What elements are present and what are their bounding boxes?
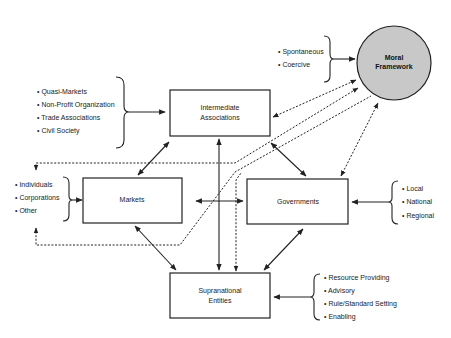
market-actor-item: • Individuals <box>15 181 53 188</box>
supranational-roles-brace <box>310 274 320 320</box>
moral-framework-label-2: Framework <box>375 63 412 70</box>
intermediate-label-1: Intermediate <box>201 104 240 111</box>
intermediate-moral-dotted-arrow <box>273 80 356 117</box>
markets-label: Markets <box>120 196 145 203</box>
market-actor-item: • Corporations <box>15 194 60 202</box>
markets-intermediate-arrow <box>138 142 169 175</box>
market-actor-item: • Other <box>15 207 38 214</box>
supranational-role-item: • Resource Providing <box>324 274 390 282</box>
moral-types-group: • Spontaneous • Coercive <box>278 36 355 82</box>
intermediate-types-group: • Quasi-Markets • Non-Profit Organizatio… <box>37 77 165 148</box>
supranational-roles-group: • Resource Providing • Advisory • Rule/S… <box>274 274 397 321</box>
moral-framework-node: Moral Framework <box>357 26 431 100</box>
government-level-item: • Regional <box>402 212 434 220</box>
government-levels-group: • Local • National • Regional <box>352 181 434 224</box>
moral-type-item: • Coercive <box>278 61 310 68</box>
moral-type-item: • Spontaneous <box>278 48 324 56</box>
government-levels-brace <box>388 181 398 224</box>
intermediate-types-brace <box>116 77 129 148</box>
intermediate-label-2: Associations <box>200 114 240 121</box>
moral-framework-label-1: Moral <box>385 54 404 61</box>
supranational-label-1: Supranational <box>198 287 242 295</box>
intermediate-type-item: • Trade Associations <box>37 114 101 121</box>
markets-node: Markets <box>83 178 182 223</box>
governments-label: Governments <box>277 198 320 205</box>
government-level-item: • Local <box>402 185 424 192</box>
market-actors-group: • Individuals • Corporations • Other <box>15 177 82 221</box>
intermediate-type-item: • Quasi-Markets <box>37 88 87 96</box>
government-level-item: • National <box>402 198 433 205</box>
supranational-role-item: • Enabling <box>324 313 356 321</box>
intermediate-associations-node: Intermediate Associations <box>170 90 270 136</box>
intermediate-associations-box <box>170 90 270 136</box>
supranational-entities-box <box>170 273 270 318</box>
supranational-role-item: • Advisory <box>324 287 355 295</box>
intermediate-type-item: • Non-Profit Organization <box>37 101 115 109</box>
supranational-moral-dotted-arrow <box>236 173 241 271</box>
institutional-framework-diagram: Moral Framework Intermediate Association… <box>0 0 451 338</box>
moral-types-brace <box>324 36 334 82</box>
supranational-role-item: • Rule/Standard Setting <box>324 300 397 308</box>
governments-node: Governments <box>247 179 348 224</box>
intermediate-type-item: • Civil Society <box>37 127 80 135</box>
governments-moral-dotted-arrow <box>341 103 378 176</box>
governments-supranational-arrow <box>264 229 303 270</box>
supranational-entities-node: Supranational Entities <box>170 273 270 318</box>
intermediate-governments-arrow <box>271 143 306 176</box>
markets-supranational-arrow <box>135 226 176 270</box>
market-actors-brace <box>63 177 73 221</box>
supranational-label-2: Entities <box>209 297 232 304</box>
